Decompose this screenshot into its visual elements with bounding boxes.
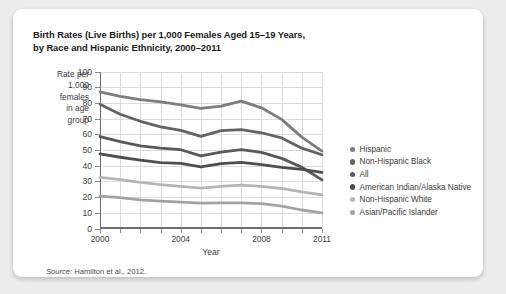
- legend-swatch-icon: [350, 147, 355, 152]
- x-tick-2008: [261, 229, 262, 233]
- y-tick-label-0: 0: [87, 224, 92, 234]
- legend-swatch-icon: [350, 172, 355, 177]
- y-tick-label-100: 100: [78, 67, 92, 77]
- x-tick-2005: [201, 229, 202, 233]
- y-axis-title-line-3: females: [37, 92, 89, 103]
- x-tick-2009: [282, 229, 283, 233]
- x-tick-2002: [140, 229, 141, 233]
- y-tick-label-40: 40: [82, 161, 92, 171]
- series-line-asian-pacific-islander: [100, 196, 322, 213]
- chart-title-line-1: Birth Rates (Live Births) per 1,000 Fema…: [33, 28, 383, 41]
- legend-item-all[interactable]: All: [350, 168, 471, 181]
- x-tick-2001: [120, 229, 121, 233]
- legend-item-label: Hispanic: [360, 145, 391, 154]
- series-line-non-hispanic-black: [100, 104, 322, 154]
- chart-title-line-2: by Race and Hispanic Ethnicity, 2000–201…: [33, 41, 383, 54]
- legend-item-hispanic[interactable]: Hispanic: [350, 143, 471, 156]
- legend-item-label: Asian/Pacific Islander: [360, 208, 438, 217]
- series-lines: [100, 72, 322, 229]
- legend-item-label: American Indian/Alaska Native: [360, 183, 472, 192]
- series-line-non-hispanic-white: [100, 177, 322, 195]
- x-tick-label-2000: 2000: [91, 234, 110, 244]
- legend-item-non-hispanic-white[interactable]: Non-Hispanic White: [350, 193, 471, 206]
- x-tick-label-2011: 2011: [313, 234, 331, 244]
- y-tick-label-60: 60: [82, 129, 92, 139]
- legend-item-american-indian-alaska-native[interactable]: American Indian/Alaska Native: [350, 181, 471, 194]
- source-label: Source:: [46, 267, 72, 276]
- source-citation: Hamilton et al., 2012.: [74, 267, 146, 276]
- x-tick-label-2004: 2004: [171, 234, 190, 244]
- y-axis-title: Rate per1,000femalesin agegroup: [37, 69, 89, 126]
- y-axis-title-line-4: in age: [37, 103, 89, 114]
- x-tick-2000: [100, 229, 101, 233]
- y-axis-title-line-2: 1,000: [37, 80, 89, 91]
- y-axis-title-line-5: group: [37, 115, 89, 126]
- chart-card: Birth Rates (Live Births) per 1,000 Fema…: [13, 9, 483, 277]
- y-tick-label-50: 50: [82, 145, 92, 155]
- legend-item-label: Non-Hispanic White: [360, 195, 432, 204]
- x-tick-2011: [322, 229, 323, 233]
- chart-legend: HispanicNon-Hispanic BlackAllAmerican In…: [350, 143, 471, 219]
- series-line-american-indian-alaska-native: [100, 153, 322, 171]
- chart-title: Birth Rates (Live Births) per 1,000 Fema…: [33, 28, 383, 54]
- x-tick-2007: [241, 229, 242, 233]
- y-tick-label-20: 20: [82, 192, 92, 202]
- plot-area: 0102030405060708090100 2000200420082011 …: [100, 72, 322, 229]
- y-tick-label-90: 90: [82, 82, 92, 92]
- legend-item-non-hispanic-black[interactable]: Non-Hispanic Black: [350, 156, 471, 169]
- legend-swatch-icon: [350, 210, 355, 215]
- x-tick-2003: [161, 229, 162, 233]
- legend-swatch-icon: [350, 159, 355, 164]
- x-tick-2006: [221, 229, 222, 233]
- source-note: Source: Hamilton et al., 2012.: [46, 267, 146, 276]
- legend-item-asian-pacific-islander[interactable]: Asian/Pacific Islander: [350, 206, 471, 219]
- legend-item-label: Non-Hispanic Black: [360, 157, 431, 166]
- x-tick-2010: [302, 229, 303, 233]
- y-tick-label-70: 70: [82, 114, 92, 124]
- y-tick-label-80: 80: [82, 98, 92, 108]
- legend-swatch-icon: [350, 184, 355, 189]
- x-tick-label-2008: 2008: [252, 234, 271, 244]
- y-tick-label-10: 10: [82, 208, 92, 218]
- x-tick-2004: [181, 229, 182, 233]
- y-tick-label-30: 30: [82, 176, 92, 186]
- legend-swatch-icon: [350, 197, 355, 202]
- x-axis-title: Year: [100, 247, 322, 257]
- legend-item-label: All: [360, 170, 369, 179]
